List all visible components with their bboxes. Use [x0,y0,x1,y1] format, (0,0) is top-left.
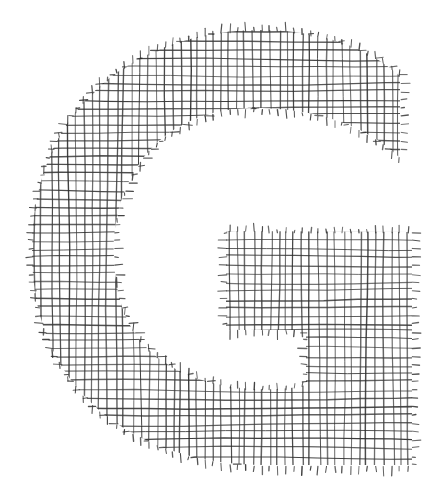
crosshatch-letter-g-drawing: Letter G Uppercase letter G rendered as … [0,0,436,490]
artwork-canvas: Letter G Uppercase letter G rendered as … [0,0,436,490]
